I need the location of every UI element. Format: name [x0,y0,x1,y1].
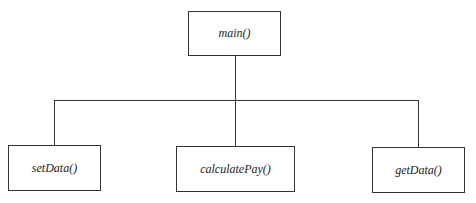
connector-right-down [418,100,419,147]
connector-left-down [54,100,55,145]
node-label: getData() [395,163,442,178]
node-label: main() [219,26,251,41]
node-setdata: setData() [8,145,101,191]
node-calculatepay: calculatePay() [176,146,295,192]
connector-horizontal-bus [54,100,419,101]
connector-root-down [235,56,236,146]
node-label: calculatePay() [200,162,271,177]
node-label: setData() [32,161,77,176]
node-getdata: getData() [372,147,465,193]
node-main: main() [188,11,281,56]
